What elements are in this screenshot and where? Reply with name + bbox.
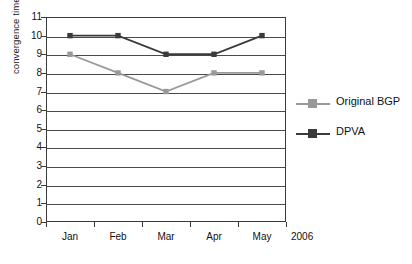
x-axis-tick-mark	[190, 222, 191, 227]
x-axis-tick-mark	[46, 222, 47, 227]
legend-item[interactable]: DPVA	[296, 122, 408, 152]
y-axis-tick-label: 4	[16, 142, 42, 152]
y-axis-tick-label: 7	[16, 87, 42, 97]
x-axis-tick-label: Jan	[62, 231, 78, 242]
legend-label: Original BGP	[336, 94, 400, 108]
legend-swatch	[296, 98, 330, 110]
y-axis-tick-label: 10	[16, 31, 42, 41]
legend-item[interactable]: Original BGP	[296, 92, 408, 122]
data-point-marker	[259, 33, 264, 38]
y-axis-tick-label: 2	[16, 180, 42, 190]
legend-marker-icon	[308, 99, 317, 108]
legend-label: DPVA	[336, 124, 365, 138]
x-axis-tick-label: Apr	[206, 231, 222, 242]
data-point-marker	[163, 52, 168, 57]
y-axis-tick-label: 8	[16, 68, 42, 78]
data-point-marker	[67, 33, 72, 38]
legend-swatch	[296, 128, 330, 140]
x-axis-tick-mark	[286, 222, 287, 227]
x-axis-tick-label: Mar	[157, 231, 174, 242]
data-point-marker	[259, 70, 264, 75]
x-axis-tick-label: Feb	[109, 231, 126, 242]
y-axis-tick-label: 1	[16, 198, 42, 208]
y-axis-tick-label: 9	[16, 49, 42, 59]
x-axis-tick-label: May	[253, 231, 272, 242]
y-axis-tick-label: 11	[16, 12, 42, 22]
x-axis-tick-mark	[94, 222, 95, 227]
chart-container: convergence time(s) 01234567891011 JanFe…	[0, 0, 412, 264]
x-axis-tick-mark	[238, 222, 239, 227]
data-point-marker	[115, 70, 120, 75]
series-line	[70, 54, 262, 91]
series-layer	[46, 17, 286, 222]
legend-marker-icon	[308, 129, 317, 138]
data-point-marker	[163, 89, 168, 94]
data-point-marker	[211, 70, 216, 75]
y-axis-tick-label: 5	[16, 124, 42, 134]
chart-legend: Original BGPDPVA	[296, 92, 408, 152]
x-axis-tick-mark	[142, 222, 143, 227]
x-axis-note: 2006	[291, 231, 313, 242]
y-axis-tick-label: 3	[16, 161, 42, 171]
data-point-marker	[211, 52, 216, 57]
series-line	[70, 36, 262, 55]
y-axis-tick-label: 6	[16, 105, 42, 115]
y-axis-tick-labels: 01234567891011	[16, 12, 42, 223]
data-point-marker	[115, 33, 120, 38]
y-axis-tick-label: 0	[16, 217, 42, 227]
data-point-marker	[67, 52, 72, 57]
